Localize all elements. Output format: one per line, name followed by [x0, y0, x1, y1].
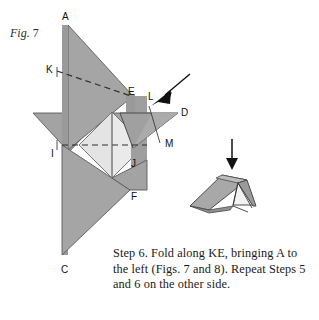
diagonal-fold-arrow: [151, 74, 190, 106]
point-label-d: D: [181, 107, 188, 118]
point-label-f: F: [131, 191, 137, 202]
tent-crease-line-2: [233, 206, 248, 212]
point-label-l: L: [148, 91, 154, 102]
point-label-k: K: [46, 64, 53, 75]
point-label-i: I: [51, 148, 54, 159]
point-label-a: A: [62, 11, 69, 22]
figure-page: Fig. 7: [0, 0, 319, 320]
down-fold-arrow: [226, 139, 238, 170]
point-label-j: J: [131, 158, 136, 169]
point-label-m: M: [165, 138, 173, 149]
point-label-e: E: [128, 86, 135, 97]
step-caption-text: Step 6. Fold along KE, bringing A to the…: [113, 246, 313, 293]
point-label-c: C: [61, 264, 68, 275]
